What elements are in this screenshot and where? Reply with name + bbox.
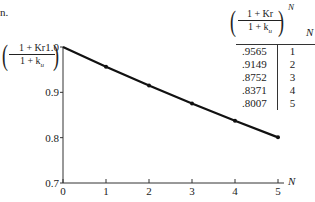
table-n: 1 — [277, 45, 301, 58]
table-header-denominator: 1 + ku — [238, 21, 282, 37]
table-value: .8752 — [236, 71, 277, 84]
table-row: .87523 — [236, 71, 301, 84]
data-point — [190, 102, 194, 106]
table-n: 5 — [277, 97, 301, 110]
y-tick-label: 0.9 — [45, 86, 59, 98]
table-value: .9149 — [236, 58, 277, 71]
values-table: ( 1 + Kr 1 + ku ) N N .95651.91492.87523… — [236, 4, 315, 110]
table-value: .8371 — [236, 84, 277, 97]
x-tick-label: 4 — [232, 185, 238, 197]
x-tick-label: 2 — [146, 185, 152, 197]
x-axis-label: N — [287, 175, 296, 187]
table-header-n: N — [306, 26, 313, 38]
data-point — [147, 84, 151, 88]
table-row: .95651 — [236, 45, 301, 58]
x-tick-label: 0 — [60, 185, 66, 197]
y-tick-label: 1.0 — [45, 41, 59, 53]
table-row: .91492 — [236, 58, 301, 71]
table-header-numerator: 1 + Kr — [238, 8, 282, 21]
table-n: 4 — [277, 84, 301, 97]
x-tick-label: 5 — [275, 185, 281, 197]
table-row: .80075 — [236, 97, 301, 110]
table-value: .8007 — [236, 97, 277, 110]
y-tick-label: 0.7 — [45, 177, 59, 189]
table-n: 3 — [277, 71, 301, 84]
table-row: .83714 — [236, 84, 301, 97]
table-body: .95651.91492.87523.83714.80075 — [236, 45, 301, 110]
x-tick-label: 3 — [189, 185, 195, 197]
table-n: 2 — [277, 58, 301, 71]
data-point — [276, 135, 280, 139]
table-value: .9565 — [236, 45, 277, 58]
table-header-exponent: N — [288, 2, 294, 12]
y-tick-label: 0.8 — [45, 132, 59, 144]
data-point — [233, 119, 237, 123]
data-point — [104, 65, 108, 69]
x-tick-label: 1 — [103, 185, 109, 197]
